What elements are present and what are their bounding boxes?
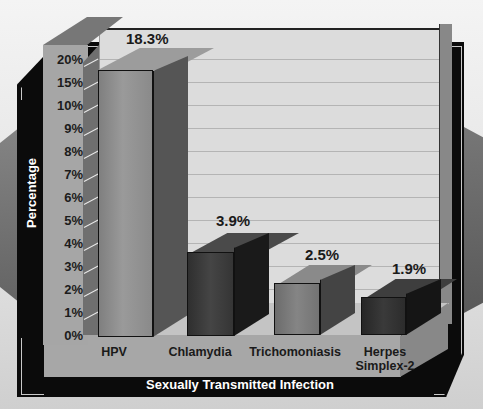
bar-value-label: 3.9%	[216, 212, 250, 229]
bar-value-label: 18.3%	[126, 30, 169, 47]
y-tick-label: 2%	[43, 282, 83, 297]
bar-front-face	[98, 70, 153, 337]
x-category-label: Trichomoniasis	[245, 345, 345, 359]
y-tick-label: 1%	[43, 305, 83, 320]
bar-side-face	[234, 233, 269, 336]
y-tick-label: 7%	[43, 167, 83, 182]
x-category-line1: Herpes	[350, 345, 420, 359]
y-tick-label: 20%	[43, 52, 83, 67]
x-category-label-multiline: Herpes Simplex-2	[350, 345, 420, 373]
x-category-label: HPV	[94, 345, 134, 359]
bar-front-face	[361, 297, 406, 335]
x-category-label: Chlamydia	[160, 345, 240, 359]
y-tick-label: 0%	[43, 328, 83, 343]
bar-front-face	[187, 252, 234, 336]
x-category-line2: Simplex-2	[350, 359, 420, 373]
bar-hpv	[98, 48, 180, 337]
bar-value-label: 1.9%	[392, 260, 426, 277]
x-axis-title: Sexually Transmitted Infection	[140, 377, 340, 392]
y-tick-label: 4%	[43, 236, 83, 251]
y-tick-label: 9%	[43, 121, 83, 136]
bar-herpes-simplex-2	[361, 279, 471, 335]
y-tick-label: 6%	[43, 190, 83, 205]
y-tick-label: 15%	[43, 75, 83, 90]
y-axis-title: Percentage	[24, 178, 38, 228]
bar-value-label: 2.5%	[305, 246, 339, 263]
y-tick-label: 3%	[43, 259, 83, 274]
y-tick-label: 8%	[43, 144, 83, 159]
y-tick-label: 5%	[43, 213, 83, 228]
bar-side-face	[153, 56, 188, 337]
bar-front-face	[274, 283, 320, 335]
y-tick-label: 10%	[43, 98, 83, 113]
